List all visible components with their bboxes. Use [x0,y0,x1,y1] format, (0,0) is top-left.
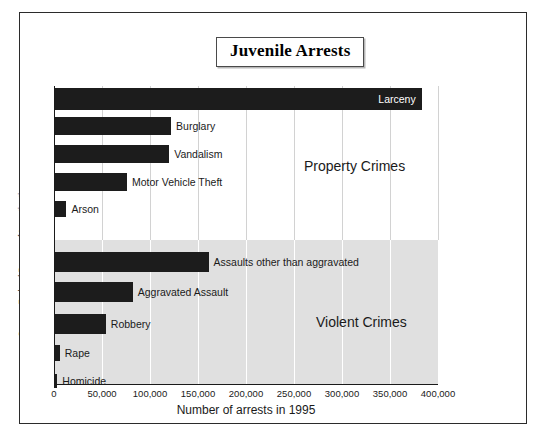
bar-assaults-other-than-aggravated [54,252,209,272]
bar-robbery [54,314,106,334]
x-tick-label: 150,000 [181,388,215,399]
bar-aggravated-assault [54,282,133,302]
x-tick-label: 100,000 [133,388,167,399]
chart-figure: Source: Federal Bureau of Investigation … [0,0,539,437]
x-tick-label: 400,000 [421,388,455,399]
bar-arson [54,201,66,217]
gridline [438,240,439,385]
bar-motor-vehicle-theft [54,173,127,191]
bar-label: Robbery [106,318,151,330]
bar-label: Homicide [57,375,106,387]
bar-row: Rape [54,345,438,361]
plot-area: LarcenyBurglaryVandalismMotor Vehicle Th… [54,86,438,385]
chart-frame: Juvenile Arrests LarcenyBurglaryVandalis… [19,12,527,424]
x-tick-label: 0 [51,388,56,399]
x-tick-label: 300,000 [325,388,359,399]
bar-row: Arson [54,201,438,217]
x-tick-label: 350,000 [373,388,407,399]
bar-label: Burglary [171,120,215,132]
bar-label: Vandalism [169,148,222,160]
bar-row: Burglary [54,117,438,135]
bar-label: Rape [60,347,90,359]
bar-row: Aggravated Assault [54,282,438,302]
bar-row: Homicide [54,374,438,388]
bar-label: Aggravated Assault [133,286,228,298]
bar-label: Motor Vehicle Theft [127,176,222,188]
y-axis-line [54,86,55,385]
bar-label: Assaults other than aggravated [209,256,359,268]
bar-row: Assaults other than aggravated [54,252,438,272]
x-tick-label: 200,000 [229,388,263,399]
x-tick-label: 50,000 [87,388,116,399]
x-axis-title: Number of arrests in 1995 [54,403,438,417]
section-caption-violent-crimes: Violent Crimes [316,314,407,330]
bar-burglary [54,117,171,135]
bar-label: Larceny [378,93,415,105]
chart-title: Juvenile Arrests [216,37,364,67]
gridline [438,86,439,240]
x-axis-line [54,384,438,385]
section-caption-property-crimes: Property Crimes [304,158,405,174]
bar-vandalism [54,145,169,163]
bar-row: Larceny [54,88,438,110]
bar-larceny: Larceny [54,88,422,110]
bar-row: Motor Vehicle Theft [54,173,438,191]
x-tick-label: 250,000 [277,388,311,399]
x-axis-ticks: 050,000100,000150,000200,000250,000300,0… [54,388,438,402]
bar-label: Arson [66,203,98,215]
